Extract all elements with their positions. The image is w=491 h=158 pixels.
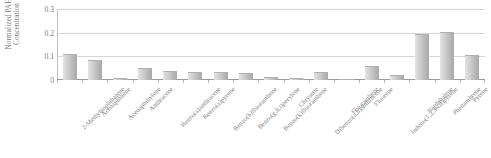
bar-slot	[435, 9, 460, 80]
x-axis-tick	[384, 80, 385, 83]
bar-slot	[309, 9, 334, 80]
x-axis-tick	[359, 80, 360, 83]
x-axis-tick	[57, 80, 58, 83]
x-axis-tick	[82, 80, 83, 83]
x-label-slot: Benzo(a)anthracene	[158, 84, 183, 158]
y-axis-tick-label: 0.1	[45, 52, 55, 61]
bar-slot	[258, 9, 283, 80]
bar-chart-figure: Normalized PAH Concentration 00.10.20.3 …	[0, 0, 491, 158]
bar	[365, 66, 379, 80]
bar	[440, 32, 454, 80]
bar-slot	[208, 9, 233, 80]
bar	[188, 72, 202, 80]
bar-slot	[133, 9, 158, 80]
x-label-slot: Fluoranthene	[334, 84, 359, 158]
x-label-slot: Benzo(b)fluoranthene	[208, 84, 233, 158]
bar	[63, 54, 77, 80]
x-axis-tick	[309, 80, 310, 83]
bar	[465, 55, 479, 80]
x-axis-tick	[107, 80, 108, 83]
bar-slot	[107, 9, 132, 80]
x-axis-tick	[435, 80, 436, 83]
x-axis-tick	[158, 80, 159, 83]
x-label-slot: Phenanthrene	[435, 84, 460, 158]
x-axis-tick-labels: 2-MethylnaphthaleneAcenaphtheneAcenaphth…	[57, 84, 485, 158]
bar-slot	[57, 9, 82, 80]
x-label-slot: Chrysene	[284, 84, 309, 158]
x-label-slot: Indeno(1,2,3-cd)pyrene	[384, 84, 409, 158]
bars-layer	[57, 9, 485, 80]
bar	[138, 68, 152, 80]
y-axis-tick-label: 0.3	[45, 5, 55, 14]
x-axis-tick	[334, 80, 335, 83]
bar-slot	[460, 9, 485, 80]
bar	[163, 71, 177, 80]
x-axis-tick	[133, 80, 134, 83]
x-label-slot: Fluorene	[359, 84, 384, 158]
x-label-slot: Benzo(a)pyrene	[183, 84, 208, 158]
bar-slot	[183, 9, 208, 80]
bar	[314, 72, 328, 80]
plot-area	[57, 9, 485, 80]
y-axis-tick-label: 0	[50, 76, 54, 85]
x-axis-tick	[460, 80, 461, 83]
x-label-slot: Benzo(k)fluoranthene	[258, 84, 283, 158]
x-axis-tick	[233, 80, 234, 83]
x-label-slot: 2-Methylnaphthalene	[57, 84, 82, 158]
bar-slot	[334, 9, 359, 80]
bar	[214, 72, 228, 80]
x-label-slot: Dibenzo(a,h)anthracene	[309, 84, 334, 158]
x-axis-tick	[183, 80, 184, 83]
y-axis-tick-labels: 00.10.20.3	[20, 0, 54, 90]
bar	[239, 73, 253, 80]
x-axis-tick	[258, 80, 259, 83]
x-axis-tick	[284, 80, 285, 83]
bar-slot	[284, 9, 309, 80]
x-axis-tick-label: Pyrene	[472, 86, 490, 104]
bar-slot	[82, 9, 107, 80]
bar	[88, 60, 102, 80]
bar-slot	[359, 9, 384, 80]
x-label-slot: Naphthalene	[409, 84, 434, 158]
bar-slot	[409, 9, 434, 80]
x-label-slot: Benzo(g,h,i)perylene	[233, 84, 258, 158]
x-label-slot: Anthracene	[133, 84, 158, 158]
x-axis-tick	[409, 80, 410, 83]
bar-slot	[158, 9, 183, 80]
x-label-slot: Acenaphthylene	[107, 84, 132, 158]
y-axis-tick-label: 0.2	[45, 28, 55, 37]
x-axis-tick	[208, 80, 209, 83]
x-label-slot: Pyrene	[460, 84, 485, 158]
bar-slot	[233, 9, 258, 80]
bar	[415, 34, 429, 80]
x-label-slot: Acenaphthene	[82, 84, 107, 158]
x-axis-tick	[484, 80, 485, 83]
bar-slot	[384, 9, 409, 80]
